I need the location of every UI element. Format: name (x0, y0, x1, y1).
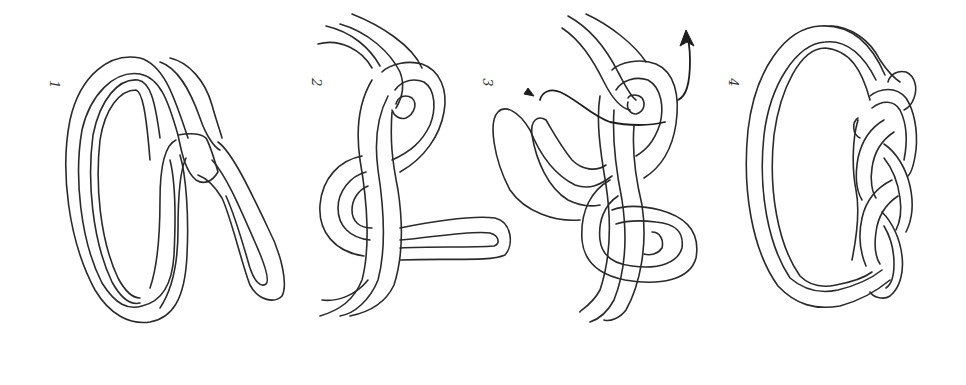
step2-upper-curl-inner (392, 96, 415, 119)
step3-strand-top-2 (568, 16, 636, 100)
step3-arrow-tail-mark (524, 88, 534, 96)
step-4-drawing (746, 26, 916, 307)
step3-lower-loop-inner (644, 232, 663, 255)
step3-top-curl-inner (627, 95, 644, 114)
step2-vertical-a (320, 80, 372, 316)
step1-outer-loop-inner-edge (79, 74, 178, 308)
step2-vertical-b (340, 96, 388, 316)
step2-bight-inner (400, 232, 498, 248)
step1-top-strand-edge-b (170, 58, 222, 138)
step1-bight-outer (198, 142, 284, 300)
step2-strand-top-1 (352, 14, 422, 68)
step4-braid-3-inner (884, 158, 901, 230)
step-2-drawing (318, 14, 510, 316)
step2-left-loop-inner (352, 186, 372, 228)
step2-strand-top-3 (326, 26, 380, 66)
step4-end-tab (888, 71, 916, 110)
step3-pull-arrowhead-icon (680, 30, 694, 46)
step4-oval-mid (762, 42, 882, 292)
step-3-drawing (493, 14, 697, 322)
knot-illustration (0, 0, 966, 385)
step3-top-curl-mid (616, 78, 662, 156)
step3-left-bight-outer (493, 109, 612, 220)
step2-left-loop-outer (320, 156, 364, 256)
step4-top-strand (830, 26, 900, 82)
step3-threading-path-line (540, 90, 665, 125)
step4-braid-2-inner (871, 132, 894, 198)
knot-tying-figure: 1 2 3 4 (0, 0, 966, 385)
step1-inner-loop-outer-edge (91, 80, 160, 304)
step-1-drawing (66, 57, 284, 322)
step4-braid-5-inner (884, 226, 894, 288)
step3-strand-top-3 (562, 28, 630, 110)
step1-bight-inner (212, 160, 267, 285)
step1-outer-loop-outer-edge (66, 57, 188, 322)
step3-vertical-b (590, 110, 625, 322)
step3-vertical-a (580, 96, 610, 312)
